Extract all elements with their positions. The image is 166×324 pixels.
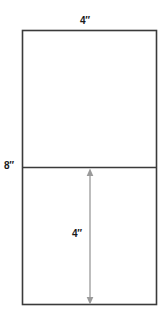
diagram-canvas xyxy=(0,0,166,324)
inner-segment-label: 4″ xyxy=(72,229,82,239)
geometry-diagram: 4″ 8″ 4″ xyxy=(0,0,166,324)
left-height-label: 8″ xyxy=(4,161,14,171)
top-width-label: 4″ xyxy=(80,16,90,26)
